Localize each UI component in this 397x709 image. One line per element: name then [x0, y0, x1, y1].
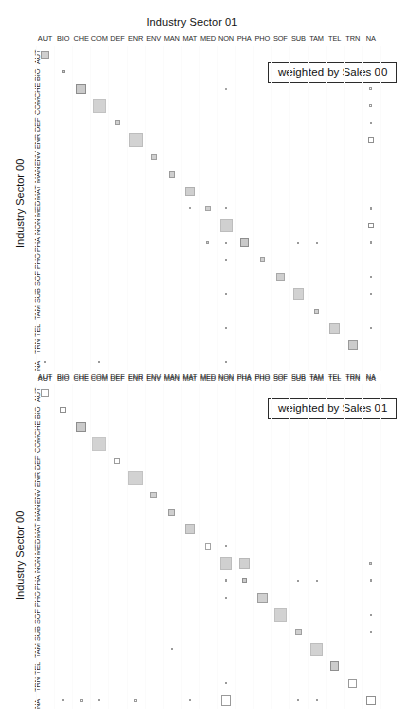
matrix-cell — [370, 207, 372, 209]
grid-line-vertical — [54, 384, 55, 709]
matrix-cell — [225, 259, 227, 261]
matrix-cell — [368, 137, 374, 143]
x-tick-man: MAN — [164, 372, 180, 381]
x-tick-sof: SOF — [273, 34, 288, 43]
matrix-cell — [370, 614, 372, 616]
matrix-cell — [80, 699, 83, 702]
matrix-cell — [151, 154, 157, 160]
matrix-cell — [274, 608, 288, 622]
x-tick-med: MED — [200, 34, 216, 43]
matrix-cell — [221, 695, 232, 706]
grid-line-vertical — [108, 384, 109, 709]
matrix-cell — [93, 99, 107, 113]
grid-line-vertical — [199, 384, 200, 709]
matrix-cell — [225, 327, 227, 329]
matrix-cell — [240, 238, 249, 247]
matrix-cell — [62, 70, 65, 73]
matrix-cell — [370, 241, 373, 244]
x-tick-mat: MAT — [182, 372, 197, 381]
grid-line-vertical — [271, 46, 272, 371]
matrix-cell — [370, 631, 372, 633]
matrix-cell — [225, 682, 227, 684]
matrix-cell — [189, 699, 191, 701]
x-tick-pho: PHO — [254, 372, 270, 381]
matrix-cell — [293, 288, 305, 300]
matrix-cell — [316, 699, 318, 701]
grid-line-vertical — [326, 384, 327, 709]
matrix-cell — [314, 309, 319, 314]
matrix-cell — [129, 133, 143, 147]
grid-line-vertical — [308, 46, 309, 371]
x-tick-com: COM — [91, 372, 108, 381]
x-tick-def: DEF — [110, 372, 124, 381]
matrix-cell — [76, 422, 86, 432]
x-tick-pha: PHA — [237, 34, 252, 43]
matrix-cell — [205, 206, 211, 212]
x-tick-enr: ENR — [128, 34, 143, 43]
matrix-cell — [225, 88, 227, 90]
matrix-cell — [225, 293, 227, 295]
x-tick-sub: SUB — [291, 34, 306, 43]
x-tick-na: NA — [366, 34, 376, 43]
matrix-cell — [370, 327, 373, 330]
x-tick-bio: BIO — [57, 34, 69, 43]
grid-line-vertical — [90, 384, 91, 709]
grid-line-vertical — [163, 46, 164, 371]
grid-line-vertical — [145, 384, 146, 709]
matrix-cell — [297, 580, 299, 582]
x-tick-na: NA — [366, 372, 376, 381]
x-tick-env: ENV — [146, 34, 161, 43]
matrix-cell — [206, 241, 209, 244]
matrix-cell — [239, 558, 250, 569]
grid-line-vertical — [289, 46, 290, 371]
grid-line-vertical — [199, 46, 200, 371]
heatmap-plot-area — [0, 46, 384, 371]
matrix-cell — [171, 648, 173, 650]
x-tick-tam: TAM — [309, 34, 324, 43]
matrix-panel-sales-01: Industry Sector 00 weighted by Sales 01 … — [0, 352, 384, 695]
x-tick-enr: ENR — [128, 372, 143, 381]
grid-line-vertical — [72, 384, 73, 709]
matrix-cell — [128, 471, 143, 486]
x-tick-pha: PHA — [237, 372, 252, 381]
matrix-cell — [260, 257, 265, 262]
matrix-cell — [369, 104, 372, 107]
x-tick-trn: TRN — [345, 372, 360, 381]
grid-line-vertical — [253, 384, 254, 709]
grid-line-vertical — [181, 46, 182, 371]
grid-line-vertical — [181, 384, 182, 709]
matrix-cell — [368, 223, 374, 229]
matrix-cell — [370, 122, 372, 124]
matrix-cell — [225, 207, 227, 209]
matrix-cell — [41, 51, 49, 59]
grid-line-vertical — [36, 46, 37, 371]
matrix-cell — [348, 340, 358, 350]
grid-line-vertical — [362, 384, 363, 709]
matrix-cell — [169, 171, 176, 178]
grid-line-vertical — [54, 46, 55, 371]
matrix-cell — [92, 437, 106, 451]
matrix-cell — [98, 699, 100, 701]
x-tick-tel: TEL — [328, 372, 341, 381]
grid-line-vertical — [344, 46, 345, 371]
matrix-cell — [134, 699, 138, 703]
grid-line-vertical — [235, 384, 236, 709]
matrix-cell — [220, 557, 233, 570]
matrix-cell — [297, 699, 299, 701]
x-tick-com: COM — [91, 34, 108, 43]
matrix-cell — [41, 389, 49, 397]
grid-line-vertical — [127, 384, 128, 709]
matrix-cell — [257, 593, 268, 604]
matrix-cell — [316, 242, 318, 244]
heatmap-plot-area — [0, 384, 384, 709]
grid-line-vertical — [235, 46, 236, 371]
matrix-cell — [220, 219, 233, 232]
matrix-cell — [297, 242, 299, 244]
matrix-cell — [185, 187, 195, 197]
matrix-cell — [366, 696, 376, 706]
x-tick-tel: TEL — [328, 34, 341, 43]
grid-line-vertical — [362, 46, 363, 371]
grid-line-vertical — [308, 384, 309, 709]
matrix-cell — [60, 407, 66, 413]
matrix-cell — [370, 276, 373, 279]
